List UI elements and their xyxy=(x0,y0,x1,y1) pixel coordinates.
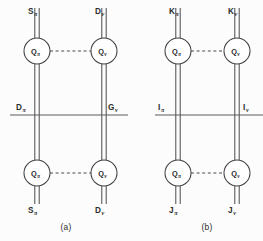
a-right-trunk xyxy=(102,64,106,160)
panel-captions-layer: (a)(b) xyxy=(60,222,212,232)
terminal-labels-layer: SπDνDπGνSπDνKπKνIπIνJπJν xyxy=(16,7,249,216)
terminal-subscript-b-bottom-right-term: ν xyxy=(233,210,236,216)
a-bottom-right-stub xyxy=(102,186,106,204)
b-bottom-right-stub xyxy=(235,186,239,204)
b-left-trunk xyxy=(176,64,180,160)
terminal-label-b-bottom-right-term: Jν xyxy=(228,206,236,216)
terminal-subscript-b-top-left-term: π xyxy=(176,11,180,17)
terminal-subscript-b-top-right-term: ν xyxy=(235,11,238,17)
terminal-label-b-top-right-term: Kν xyxy=(228,7,238,17)
terminal-label-a-bottom-left-term: Sπ xyxy=(28,206,38,216)
node-b-bottom-left: Qπ xyxy=(165,160,191,186)
terminal-label-a-top-left-term: Sπ xyxy=(28,7,38,17)
terminal-subscript-a-top-right-term: ν xyxy=(102,11,105,17)
node-a-top-left: Qπ xyxy=(24,38,50,64)
node-a-top-right: Qν xyxy=(91,38,117,64)
dashed-links-layer xyxy=(50,51,224,173)
node-b-top-right: Qν xyxy=(224,38,250,64)
b-bottom-left-stub xyxy=(176,186,180,204)
circuit-diagram-figure: QπQνQπQνQπQνQπQν SπDνDπGνSπDνKπKνIπIνJπJ… xyxy=(0,0,263,241)
terminal-subscript-b-bottom-left-term: π xyxy=(174,210,178,216)
caption-a: (a) xyxy=(60,222,71,232)
terminal-subscript-a-top-left-term: π xyxy=(34,11,38,17)
terminal-label-a-top-right-term: Dν xyxy=(95,7,105,17)
b-right-trunk xyxy=(235,64,239,160)
a-bottom-left-stub xyxy=(35,186,39,204)
terminal-subscript-a-mid-right-term: ν xyxy=(115,107,118,113)
wires-layer xyxy=(35,8,239,204)
terminal-label-b-bottom-left-term: Jπ xyxy=(169,206,178,216)
diagram-canvas: QπQνQπQνQπQνQπQν SπDνDπGνSπDνKπKνIπIνJπJ… xyxy=(0,0,263,241)
terminal-subscript-a-bottom-left-term: π xyxy=(34,210,38,216)
terminal-label-b-mid-left-term: Iπ xyxy=(158,103,165,113)
terminal-subscript-b-mid-left-term: π xyxy=(161,107,165,113)
caption-b: (b) xyxy=(201,222,212,232)
terminal-label-a-bottom-right-term: Dν xyxy=(95,206,105,216)
node-a-bottom-left: Qπ xyxy=(24,160,50,186)
terminal-label-a-mid-right-term: Gν xyxy=(108,103,118,113)
terminal-subscript-b-mid-right-term: ν xyxy=(246,107,249,113)
node-a-bottom-right: Qν xyxy=(91,160,117,186)
a-left-trunk xyxy=(35,64,39,160)
nodes-layer: QπQνQπQνQπQνQπQν xyxy=(24,38,250,186)
node-b-top-left: Qπ xyxy=(165,38,191,64)
terminal-subscript-a-bottom-right-term: ν xyxy=(102,210,105,216)
terminal-label-b-top-left-term: Kπ xyxy=(169,7,180,17)
terminal-subscript-a-mid-left-term: π xyxy=(23,107,27,113)
terminal-label-b-mid-right-term: Iν xyxy=(243,103,249,113)
node-b-bottom-right: Qν xyxy=(224,160,250,186)
terminal-label-a-mid-left-term: Dπ xyxy=(16,103,27,113)
